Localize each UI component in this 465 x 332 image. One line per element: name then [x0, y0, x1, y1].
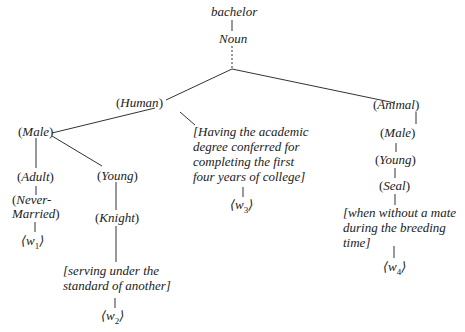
node-animal: (Animal) — [373, 97, 419, 112]
node-young-left: (Young) — [97, 168, 138, 183]
sense-w3: ⟨w3⟩ — [230, 197, 253, 215]
gloss-knight: [serving under the standard of another] — [63, 263, 171, 293]
sense-w2: ⟨w2⟩ — [101, 308, 124, 326]
sense-w4: ⟨w4⟩ — [383, 259, 406, 277]
node-male-right: (Male) — [380, 125, 415, 140]
node-never-married: (Never-Married) — [12, 193, 60, 221]
sense-w1: ⟨w1⟩ — [21, 233, 44, 251]
node-seal: (Seal) — [379, 178, 410, 193]
node-human: (Human) — [116, 95, 163, 110]
root-word: bachelor — [211, 4, 257, 19]
node-knight: (Knight) — [95, 210, 139, 225]
node-adult: (Adult) — [17, 169, 54, 184]
gloss-seal: [when without a mate during the breeding… — [343, 205, 456, 250]
gloss-degree: [Having the academic degree conferred fo… — [193, 124, 309, 184]
node-male-left: (Male) — [18, 124, 53, 139]
node-young-right: (Young) — [375, 152, 416, 167]
pos-node: Noun — [219, 31, 247, 46]
